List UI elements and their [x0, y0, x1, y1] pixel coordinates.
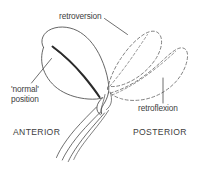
vaginal-canal-mid-line — [62, 112, 100, 160]
retroflexion-uterus-dashed-outline — [111, 48, 188, 101]
label-retroflexion: retroflexion — [138, 104, 178, 113]
retroversion-leader-line — [105, 19, 128, 35]
normal-position-uterus-lower-outline — [42, 48, 103, 100]
label-normal-position-line-2: position — [11, 94, 39, 104]
retroversion-uterus-dashed-outline — [108, 31, 162, 89]
vaginal-canal-posterior-wall — [68, 113, 104, 162]
label-posterior: POSTERIOR — [133, 128, 187, 138]
uterine-position-diagram: retroversion 'normal' position retroflex… — [0, 0, 198, 179]
label-anterior: ANTERIOR — [13, 128, 60, 138]
label-retroversion: retroversion — [59, 12, 102, 21]
label-normal-position: 'normal' position — [11, 84, 39, 105]
vaginal-canal-anterior-wall — [57, 107, 97, 158]
cervix-canal-line — [101, 95, 105, 114]
label-normal-position-line-1: 'normal' — [11, 84, 39, 94]
cervix-right-fold — [107, 92, 112, 110]
